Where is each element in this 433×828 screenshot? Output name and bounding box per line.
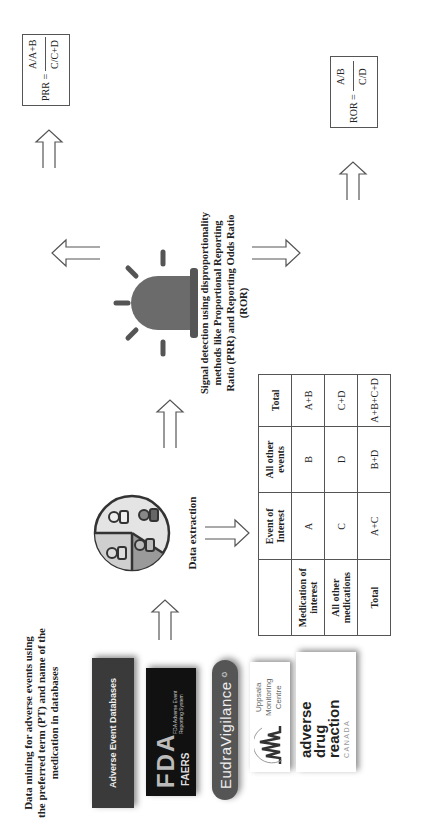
data-extraction-label: Data extraction: [186, 483, 199, 583]
adverse-event-databases-card: Adverse Event Databases: [92, 658, 134, 808]
fda-faers-logo: FDA FAERS FDA Adverse Event Reporting Sy…: [146, 668, 196, 796]
eu-stars-icon: ✪: [221, 671, 229, 677]
data-mining-title: Data mining for adverse events using the…: [22, 628, 61, 818]
prr-formula-box: PRR = A/A+B C/C+D: [22, 34, 70, 106]
adverse-event-databases-label: Adverse Event Databases: [108, 678, 118, 788]
table-row: Medication of interest A B A+B: [292, 375, 325, 636]
database-people-icon: [92, 493, 172, 573]
arrow-right-icon: [155, 398, 185, 448]
umc-wave-icon: [254, 722, 286, 766]
diagram-canvas: Data mining for adverse events using the…: [0, 0, 433, 828]
arrow-right-icon: [338, 160, 368, 200]
signal-detection-label: Signal detection using disproportionalit…: [198, 208, 250, 398]
eudravigilance-logo: EudraVigilance ✪: [212, 660, 238, 800]
table-row: Total A+C B+D A+B+C+D: [358, 375, 391, 636]
alarm-siren-icon: [108, 248, 208, 358]
table-header-row: Event of Interest All other events Total: [259, 375, 292, 636]
adverse-drug-reaction-canada-logo: adverse drug reaction CANADA: [296, 652, 356, 772]
uppsala-monitoring-centre-logo: Uppsala Monitoring Centre: [250, 662, 290, 772]
table-row: All other medications C D C+D: [325, 375, 358, 636]
ror-formula-box: ROR = A/B C/D: [330, 56, 378, 128]
arrow-right-icon: [150, 598, 180, 640]
arrow-down-icon: [205, 518, 255, 548]
arrow-down-icon: [252, 238, 302, 268]
contingency-table: Event of Interest All other events Total…: [258, 374, 391, 636]
arrow-up-icon: [50, 238, 100, 268]
arrow-right-icon: [34, 128, 64, 168]
